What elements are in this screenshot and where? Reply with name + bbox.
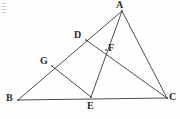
segment-DC [86,40,167,98]
vertex-label-C: C [169,92,176,102]
point-F [105,49,107,51]
vertex-label-E: E [87,101,94,111]
point-E [90,96,92,98]
vertex-label-B: B [6,93,13,103]
vertex-label-A: A [116,0,123,10]
point-C [166,97,168,99]
point-D [85,39,87,41]
segment-AC [122,11,167,98]
vertex-label-F: F [108,43,114,53]
vertex-label-G: G [40,56,48,66]
vertex-label-D: D [74,30,81,40]
point-A [121,10,123,12]
point-B [17,99,19,101]
geometry-figure: ABCDEFG [0,0,180,119]
point-G [51,65,53,67]
segment-GE [52,66,91,97]
